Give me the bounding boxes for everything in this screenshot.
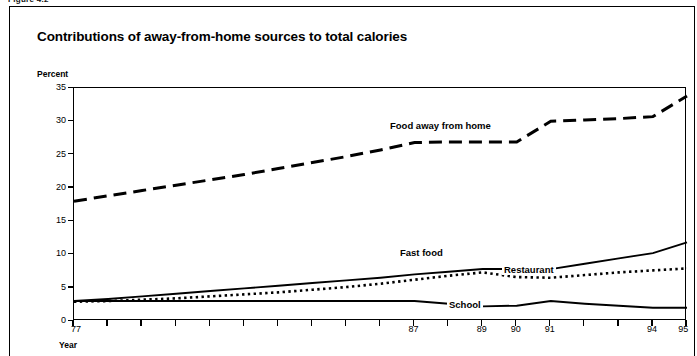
x-tick-label: 87 <box>409 324 419 334</box>
page-title: Contributions of away-from-home sources … <box>37 29 407 44</box>
y-tick-label: 25 <box>40 149 66 159</box>
series-label-restaurant: Restaurant <box>502 264 556 275</box>
y-tick-label: 20 <box>40 182 66 192</box>
x-tick-label: 90 <box>511 324 521 334</box>
y-tick-label: 5 <box>40 282 66 292</box>
y-tick-label: 0 <box>40 315 66 325</box>
chart-panel: Contributions of away-from-home sources … <box>9 6 695 356</box>
y-axis-title: Percent <box>37 69 68 79</box>
series-line-restaurant <box>74 268 687 301</box>
plot-area <box>73 87 686 320</box>
figure-header: Figure 4.2 <box>8 0 98 4</box>
series-label-fast-food: Fast food <box>398 247 445 258</box>
y-tick-label: 35 <box>40 82 66 92</box>
y-tick-label: 30 <box>40 115 66 125</box>
series-label-food-away: Food away from home <box>388 120 493 131</box>
series-line-food-away-from-home <box>74 96 687 201</box>
y-tick-label: 15 <box>40 215 66 225</box>
series-label-school: School <box>447 299 483 310</box>
series-line-fast-food <box>74 242 687 301</box>
x-tick-label: 77 <box>71 324 81 334</box>
x-tick-label: 95 <box>678 324 688 334</box>
x-tick-label: 91 <box>545 324 555 334</box>
series-lines <box>74 88 687 321</box>
y-tick-label: 10 <box>40 248 66 258</box>
x-axis-title: Year <box>59 340 77 350</box>
series-line-school <box>74 301 687 308</box>
x-tick-label: 89 <box>477 324 487 334</box>
x-tick-label: 94 <box>647 324 657 334</box>
